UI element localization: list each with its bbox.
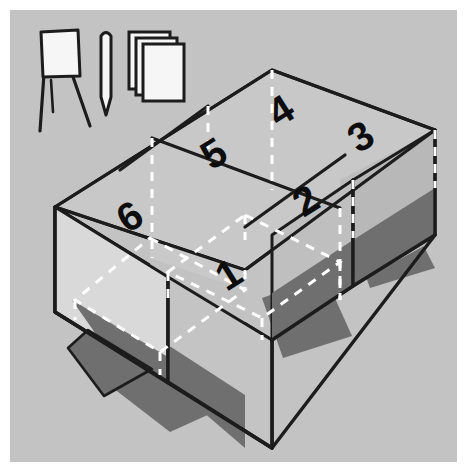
isometric-scene: 4 3 5 2 6 1 xyxy=(0,0,470,472)
pencil-icon xyxy=(101,33,111,116)
paper-stack-icon xyxy=(129,32,184,101)
compartment-box: 4 3 5 2 6 1 xyxy=(55,70,435,448)
flipchart-easel-icon xyxy=(40,30,90,131)
screenshot-root: 4 3 5 2 6 1 xyxy=(0,0,470,472)
supplies-group xyxy=(40,30,184,131)
